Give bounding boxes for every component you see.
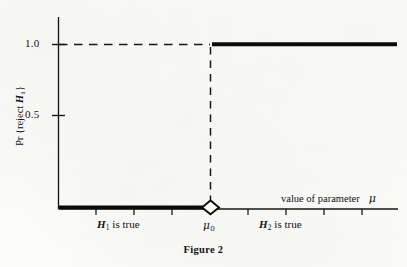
y-axis-title: Pr {reject H1} <box>15 64 27 168</box>
threshold-mu0-label: μ0 <box>203 220 215 232</box>
region-right-text: is true <box>272 218 302 230</box>
y-axis-title-suffix: } <box>14 86 25 91</box>
threshold-mu0-subscript: 0 <box>210 224 215 233</box>
y-axis-title-prefix: Pr {reject <box>14 103 25 146</box>
x-axis-title-text: value of parameter <box>281 193 360 204</box>
threshold-open-diamond-marker <box>202 201 219 215</box>
figure-panel: 1.0 0.5 Pr {reject H1} value of paramete… <box>0 0 407 267</box>
x-axis-title: value of parameterμ <box>281 193 376 205</box>
region-left-hypothesis: H <box>97 218 106 230</box>
region-label-h2-is-true: H2 is true <box>259 219 302 232</box>
region-right-hypothesis: H <box>259 218 268 230</box>
region-left-text: is true <box>110 218 140 230</box>
x-axis-mu-symbol: μ <box>369 192 376 205</box>
x-tick-marks <box>96 209 362 215</box>
y-tick-label-1-0: 1.0 <box>25 38 39 49</box>
y-axis-title-hypothesis: H <box>14 95 25 103</box>
y-tick-label-0-5: 0.5 <box>25 109 39 120</box>
figure-caption: Figure 2 <box>0 245 407 256</box>
threshold-mu0-base: μ <box>203 219 210 231</box>
y-axis-title-hypothesis-subscript: 1 <box>19 91 27 95</box>
region-label-h1-is-true: H1 is true <box>97 219 140 232</box>
